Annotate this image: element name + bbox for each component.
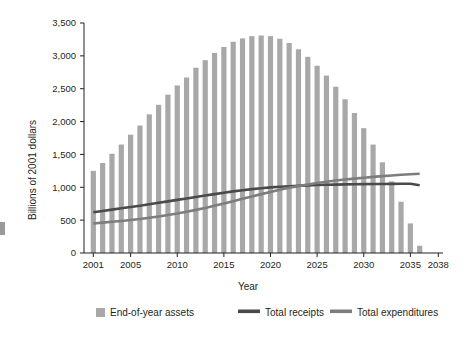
y-tick-label-1,000: 1,000 [52, 182, 76, 193]
bar-2007 [147, 114, 152, 253]
bar-2023 [296, 49, 301, 253]
legend-swatch-line-icon [330, 310, 352, 314]
bar-2024 [305, 57, 310, 253]
bar-2017 [240, 38, 245, 253]
bar-2010 [175, 85, 180, 253]
bar-2002 [100, 163, 105, 253]
y-tick-label-3,500: 3,500 [52, 17, 76, 28]
x-axis-title: Year [238, 281, 259, 292]
bar-2016 [231, 42, 236, 253]
bar-2004 [119, 145, 124, 253]
bar-2033 [389, 181, 394, 253]
bar-2036 [417, 246, 422, 253]
bar-2022 [287, 43, 292, 253]
bar-2015 [221, 47, 226, 253]
bar-2028 [342, 99, 347, 253]
bar-2021 [277, 39, 282, 253]
y-axis-title-group: Billions of 2001 dollars [27, 120, 38, 220]
bar-2027 [333, 87, 338, 253]
chart-figure: 05001,0001,5002,0002,5003,0003,500 20012… [0, 0, 467, 344]
x-tick-label-2025: 2025 [307, 259, 328, 270]
bar-2013 [203, 60, 208, 253]
y-tick-label-2,500: 2,500 [52, 83, 76, 94]
legend-label: Total receipts [265, 307, 324, 318]
bar-2012 [193, 68, 198, 253]
bar-2014 [212, 53, 217, 253]
y-tick-label-500: 500 [60, 215, 76, 226]
x-tick-label-2005: 2005 [120, 259, 141, 270]
bar-2034 [398, 202, 403, 253]
bar-2003 [109, 154, 114, 253]
bar-2005 [128, 135, 133, 253]
chart-canvas: 05001,0001,5002,0002,5003,0003,500 20012… [0, 0, 467, 344]
bar-2019 [259, 35, 264, 253]
legend-swatch-square-icon [96, 308, 105, 317]
chart-legend: End-of-year assetsTotal receiptsTotal ex… [96, 307, 438, 318]
bar-2008 [156, 105, 161, 253]
y-tick-label-3,000: 3,000 [52, 50, 76, 61]
x-tick-label-2010: 2010 [167, 259, 188, 270]
bar-2011 [184, 78, 189, 253]
x-tick-label-2015: 2015 [213, 259, 234, 270]
x-tick-label-2001: 2001 [83, 259, 104, 270]
bar-2035 [408, 223, 413, 253]
bar-2030 [361, 128, 366, 253]
legend-swatch-line-icon [238, 310, 260, 314]
legend-label: Total expenditures [357, 307, 438, 318]
x-tick-label-2035: 2035 [400, 259, 421, 270]
bar-2006 [137, 126, 142, 253]
bar-2009 [165, 95, 170, 253]
x-tick-label-2030: 2030 [353, 259, 374, 270]
bar-2025 [315, 66, 320, 253]
x-tick-label-2020: 2020 [260, 259, 281, 270]
y-tick-label-1,500: 1,500 [52, 149, 76, 160]
y-tick-label-0: 0 [71, 247, 76, 258]
y-axis-title: Billions of 2001 dollars [27, 120, 38, 220]
cropped-edge-artifact [0, 222, 5, 235]
legend-item-end-of-year-assets[interactable]: End-of-year assets [96, 307, 194, 318]
bar-2031 [370, 145, 375, 253]
y-tick-label-2,000: 2,000 [52, 116, 76, 127]
bar-2026 [324, 76, 329, 253]
bar-2020 [268, 36, 273, 253]
x-tick-label-2038: 2038 [428, 259, 449, 270]
bar-2018 [249, 36, 254, 253]
legend-label: End-of-year assets [110, 307, 194, 318]
